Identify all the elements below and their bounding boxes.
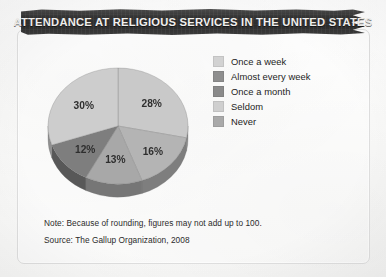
- rounding-note: Note: Because of rounding, figures may n…: [44, 218, 344, 228]
- page-title: ATTENDANCE AT RELIGIOUS SERVICES IN THE …: [21, 9, 365, 35]
- legend-item-label: Seldom: [231, 101, 263, 112]
- pie-slices: [48, 68, 188, 184]
- legend-item-label: Once a month: [231, 86, 291, 97]
- legend-item-never[interactable]: Never: [213, 114, 363, 128]
- legend-item-once-a-month[interactable]: Once a month: [213, 84, 363, 98]
- legend-swatch-icon: [213, 56, 224, 67]
- legend-swatch-icon: [213, 116, 224, 127]
- footnotes: Note: Because of rounding, figures may n…: [44, 218, 344, 245]
- source-note: Source: The Gallup Organization, 2008: [44, 235, 344, 245]
- pie-label-once-a-week: 28%: [142, 98, 162, 109]
- legend-item-once-a-week[interactable]: Once a week: [213, 54, 363, 68]
- pie-chart-svg: 28%16%13%12%30%: [38, 52, 198, 212]
- legend-swatch-icon: [213, 71, 224, 82]
- legend-item-label: Never: [231, 116, 256, 127]
- pie-label-almost-every-week: 16%: [143, 146, 163, 157]
- legend: Once a week Almost every week Once a mon…: [213, 54, 363, 129]
- legend-item-label: Almost every week: [231, 71, 311, 82]
- legend-item-almost-every-week[interactable]: Almost every week: [213, 69, 363, 83]
- legend-item-label: Once a week: [231, 56, 286, 67]
- pie-chart: 28%16%13%12%30%: [38, 52, 198, 212]
- title-banner: ATTENDANCE AT RELIGIOUS SERVICES IN THE …: [21, 9, 365, 35]
- pie-label-never: 30%: [74, 100, 94, 111]
- pie-label-seldom: 12%: [75, 144, 95, 155]
- legend-item-seldom[interactable]: Seldom: [213, 99, 363, 113]
- legend-swatch-icon: [213, 101, 224, 112]
- pie-label-once-a-month: 13%: [105, 154, 125, 165]
- legend-swatch-icon: [213, 86, 224, 97]
